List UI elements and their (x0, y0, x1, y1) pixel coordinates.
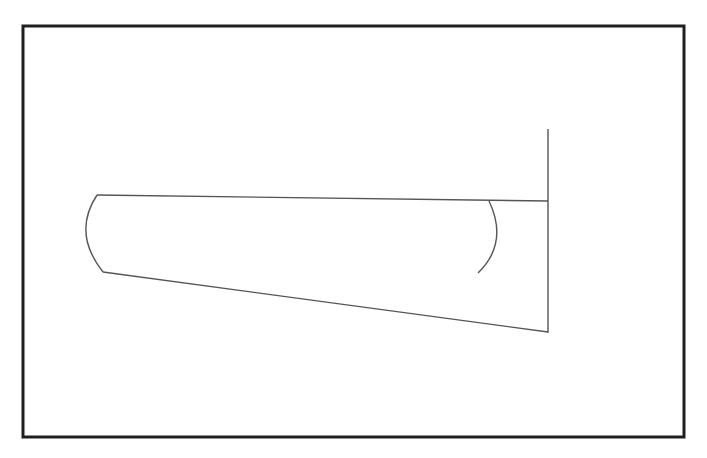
lower-taper-line (103, 272, 548, 332)
interior-section-curve (478, 201, 497, 273)
figure-canvas (0, 0, 707, 458)
outer-border (23, 26, 684, 437)
technical-drawing-svg (0, 0, 707, 458)
upper-chord-line (97, 195, 548, 201)
leading-edge-nose-curve (86, 195, 103, 272)
